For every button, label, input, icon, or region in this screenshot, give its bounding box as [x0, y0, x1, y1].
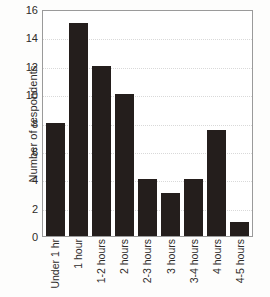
bar — [161, 193, 180, 236]
x-tick-cell: 2 hours — [115, 239, 134, 297]
x-tick-label: 1 hour — [72, 239, 83, 269]
x-tick-cell: 4-5 hours — [231, 239, 250, 297]
y-tick-label: 0 — [14, 232, 38, 242]
bar — [138, 179, 157, 236]
x-tick-label: 2-3 hours — [142, 239, 153, 283]
x-tick-cell: 3 hours — [161, 239, 180, 297]
y-tick-label: 8 — [14, 119, 38, 129]
y-tick-label: 4 — [14, 175, 38, 185]
bar — [115, 94, 134, 236]
y-tick-label: 10 — [14, 90, 38, 100]
bar — [46, 123, 65, 237]
y-tick-label: 2 — [14, 204, 38, 214]
x-tick-label: 1-2 hours — [96, 239, 107, 283]
x-tick-label: 2 hours — [119, 239, 130, 274]
x-tick-cell: 2-3 hours — [138, 239, 157, 297]
x-tick-label: Under 1 hr — [49, 239, 60, 289]
x-tick-cell: 4 hours — [208, 239, 227, 297]
y-tick-label: 14 — [14, 33, 38, 43]
y-tick-label: 16 — [14, 5, 38, 15]
x-tick-cell: 3-4 hours — [184, 239, 203, 297]
bars-container — [43, 11, 252, 236]
x-tick-cell: Under 1 hr — [45, 239, 64, 297]
x-tick-cell: 1-2 hours — [92, 239, 111, 297]
x-axis-tick-labels: Under 1 hr1 hour1-2 hours2 hours2-3 hour… — [42, 239, 253, 297]
y-tick-label: 6 — [14, 147, 38, 157]
plot-area — [42, 10, 253, 237]
bar — [184, 179, 203, 236]
x-tick-cell: 1 hour — [68, 239, 87, 297]
bar — [69, 23, 88, 236]
x-tick-label: 3 hours — [165, 239, 176, 274]
y-tick-label: 12 — [14, 62, 38, 72]
bar — [207, 130, 226, 236]
bar-chart-figure: Number of respondents 0246810121416 Unde… — [0, 0, 270, 297]
x-tick-label: 4-5 hours — [235, 239, 246, 283]
y-axis-tick-labels: 0246810121416 — [14, 10, 38, 237]
x-tick-label: 4 hours — [212, 239, 223, 274]
bar — [230, 222, 249, 236]
x-tick-label: 3-4 hours — [188, 239, 199, 283]
bar — [92, 66, 111, 236]
